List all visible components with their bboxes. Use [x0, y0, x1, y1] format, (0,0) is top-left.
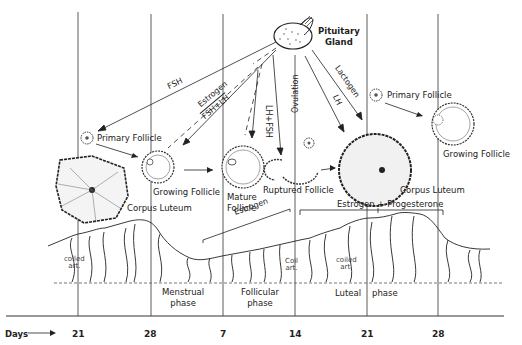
corpus-luteum-right-label: Corpus Luteum	[400, 186, 465, 195]
corpus-luteum-left-icon	[56, 156, 128, 223]
growing-follicle-right-icon	[432, 103, 474, 145]
endometrium-drawing	[48, 213, 504, 284]
pituitary-gland-label: Pituitary Gland	[318, 26, 360, 47]
days-arrowhead-icon	[50, 330, 56, 336]
corpus-luteum-right-icon	[339, 134, 411, 206]
primary-follicle-right-label: Primary Follicle	[387, 91, 452, 100]
coiled-right-line2: art.	[340, 263, 352, 271]
pituitary-label-line1: Pituitary	[318, 26, 360, 36]
luteal-phase-label-2: phase	[372, 289, 398, 298]
growing-follicle-right-label: Growing Follicle	[443, 150, 510, 159]
estrogen-bracket	[203, 209, 290, 243]
primary-follicle-left-label: Primary Follicle	[97, 134, 162, 143]
day-tick-21-a: 21	[72, 329, 85, 339]
day-tick-28-a: 28	[144, 329, 157, 339]
days-axis-label: Days	[5, 329, 28, 339]
day-tick-28-b: 28	[432, 329, 445, 339]
estrogen-progesterone-label: Estrogen + Progesterone	[337, 200, 443, 209]
ruptured-follicle-label: Ruptured Follicle	[263, 186, 334, 195]
pituitary-label-line2: Gland	[325, 37, 353, 47]
lh-fsh-arrow-label: LH+FSH	[264, 105, 273, 138]
menstrual-line1: Menstrual	[162, 287, 204, 297]
day-tick-21-b: 21	[361, 329, 374, 339]
day-tick-7: 7	[220, 329, 226, 339]
ruptured-follicle-icon	[264, 138, 318, 184]
ovulation-label: Ovulation	[291, 74, 300, 113]
follicular-phase-label: Follicular phase	[241, 287, 279, 308]
follicular-line2: phase	[247, 298, 273, 308]
growing-follicle-left-icon	[142, 151, 174, 183]
corpus-luteum-left-label: Corpus Luteum	[127, 204, 192, 213]
luteal-phase-label-1: Luteal	[335, 289, 361, 298]
primary-follicle-left-icon	[81, 132, 93, 144]
coiled-left-line2: art.	[68, 262, 80, 270]
pituitary-gland-icon	[274, 16, 313, 49]
mature-follicle-icon	[222, 146, 264, 188]
growing-follicle-left-label: Growing Follicle	[153, 188, 220, 197]
coiled-art-label-right: coiled art.	[336, 257, 357, 272]
coil-mid-line2: art.	[285, 264, 297, 272]
menstrual-phase-label: Menstrual phase	[162, 287, 204, 308]
coiled-art-label-left: coiled art.	[64, 256, 85, 271]
primary-follicle-right-icon	[370, 89, 382, 101]
day-tick-14: 14	[289, 329, 302, 339]
follicular-line1: Follicular	[241, 287, 279, 297]
menstrual-line2: phase	[170, 298, 196, 308]
coil-art-label-mid: Coil art.	[285, 258, 298, 273]
